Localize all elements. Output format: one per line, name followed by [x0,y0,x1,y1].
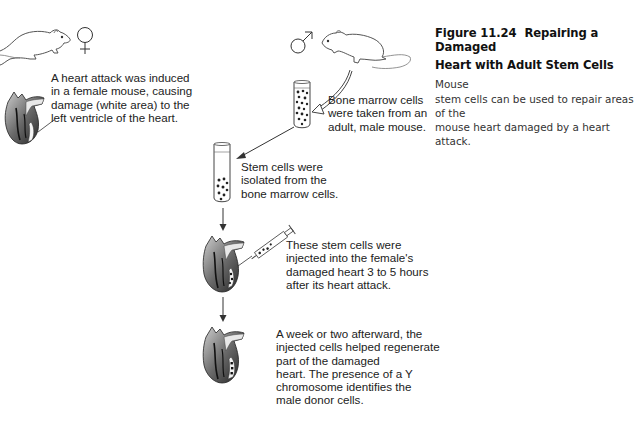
stem-cell-tube [213,142,231,204]
step-regeneration-text: A week or two afterward, the injected ce… [276,327,440,407]
caption-line-4: mouse heart damaged by a heart attack. [435,120,644,148]
caption-line-3: stem cells can be used to repair areas o… [435,92,644,120]
damaged-heart-illustration [4,90,48,145]
female-symbol-icon [75,26,95,58]
figure-number: Figure 11.24 [435,26,517,40]
arrow-down-1 [218,208,228,232]
arrow-marrow-to-stem-tube [234,125,296,161]
bone-marrow-tube [293,80,311,130]
female-mouse-illustration [0,25,75,75]
step-heart-attack-text: A heart attack was induced in a female m… [51,71,192,124]
step-bone-marrow-text: Bone marrow cells were taken from an adu… [328,93,427,133]
step-injection-text: These stem cells were injected into the … [286,238,428,291]
arrow-down-2 [218,297,228,323]
male-symbol-icon [289,30,315,56]
caption-text-start: Mouse [435,78,469,90]
regenerated-heart-illustration [202,325,250,385]
figure-title-line2: Heart with Adult Stem Cells [435,58,614,72]
step-stem-isolation-text: Stem cells were isolated from the bone m… [241,160,338,200]
figure-caption: Figure 11.24 Repairing a Damaged Heart w… [435,26,644,148]
